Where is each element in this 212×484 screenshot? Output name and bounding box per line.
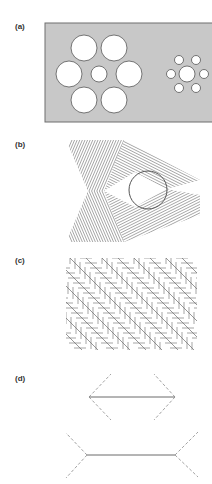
panel-a-ebbinghaus	[45, 23, 212, 122]
surround-circle	[71, 87, 97, 113]
panel-c-zollner	[0, 252, 212, 354]
surround-circle	[71, 35, 97, 61]
surround-circle	[101, 35, 127, 61]
center-circle	[91, 66, 107, 82]
figure-canvas	[0, 0, 212, 484]
surround-circle	[175, 84, 184, 93]
surround-circle	[192, 84, 201, 93]
surround-circle	[56, 61, 82, 87]
surround-circle	[101, 87, 127, 113]
surround-circle	[175, 56, 184, 65]
center-circle	[179, 66, 195, 82]
surround-circle	[116, 61, 142, 87]
surround-circle	[192, 56, 201, 65]
surround-circle	[200, 70, 209, 79]
circle-outline	[129, 171, 167, 209]
panel-d-muller-lyer	[66, 374, 198, 478]
surround-circle	[167, 70, 176, 79]
